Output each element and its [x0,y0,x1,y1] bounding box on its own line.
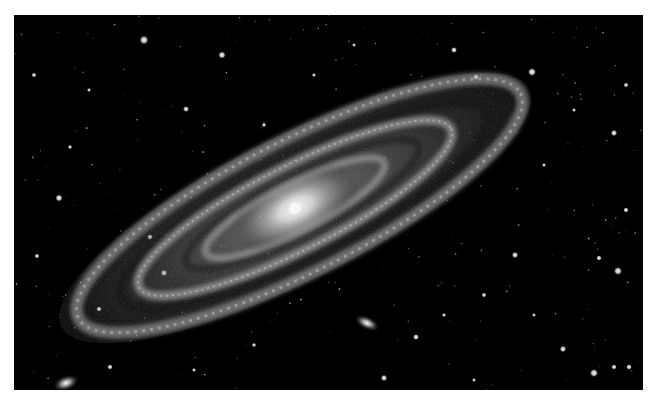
galaxy-photo [14,15,643,390]
andromeda-galaxy [14,15,643,390]
galaxy-scene [14,15,643,390]
